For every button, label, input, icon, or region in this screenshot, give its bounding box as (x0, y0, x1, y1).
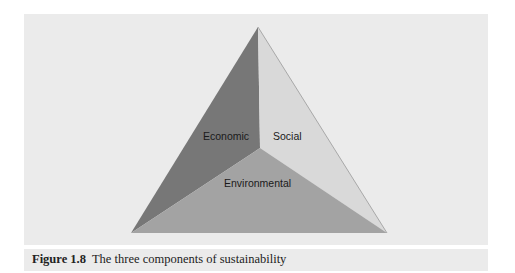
figure-number: Figure 1.8 (32, 252, 86, 266)
caption-text: The three components of sustainability (92, 252, 286, 266)
figure-caption: Figure 1.8 The three components of susta… (32, 252, 286, 267)
social-label: Social (273, 130, 302, 142)
environmental-label: Environmental (224, 177, 291, 189)
economic-label: Economic (203, 130, 249, 142)
sustainability-triangle-diagram: Economic Social Environmental (0, 0, 515, 273)
